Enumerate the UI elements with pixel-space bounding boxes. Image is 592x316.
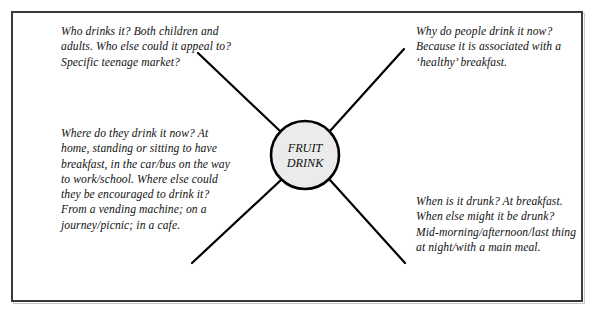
branch-note-who-drinks-it: Who drinks it? Both children and adults.…	[61, 24, 233, 70]
branch-note-why-drink-it-now: Why do people drink it now? Because it i…	[416, 24, 576, 70]
center-node-label-line2: DRINK	[286, 156, 324, 170]
spoke-top-right-line	[330, 49, 404, 131]
diagram-page: FRUIT DRINK Who drinks it? Both children…	[0, 0, 592, 316]
center-node-circle	[271, 121, 339, 189]
branch-note-where-do-they-drink-it: Where do they drink it now? At home, sta…	[61, 126, 233, 233]
spoke-bottom-right-line	[330, 180, 405, 263]
center-node-label-line1: FRUIT	[287, 141, 324, 155]
branch-note-when-is-it-drunk: When is it drunk? At breakfast. When els…	[416, 194, 578, 255]
